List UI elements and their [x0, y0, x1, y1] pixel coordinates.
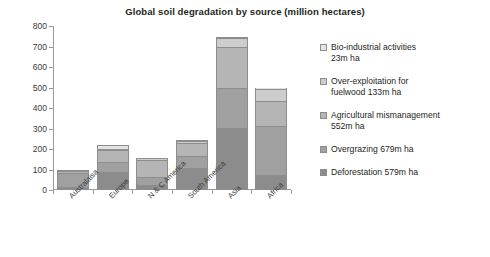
y-axis-tick [49, 149, 53, 150]
y-axis-tick [49, 129, 53, 130]
y-axis-tick [49, 108, 53, 109]
legend-swatch-icon [320, 44, 327, 51]
legend-item[interactable]: Agricultural mismanagement552m ha [320, 110, 488, 132]
y-axis-tick [49, 67, 53, 68]
legend-item-label: Agricultural mismanagement552m ha [331, 110, 440, 132]
x-axis-tick [93, 190, 94, 194]
chart-legend: Bio-industrial activities23m haOver-expl… [320, 42, 488, 190]
legend-item[interactable]: Deforestation 579m ha [320, 167, 488, 178]
y-axis-tick-label: 100 [33, 165, 47, 175]
bar-segment[interactable] [217, 39, 247, 48]
y-axis-tick-label: 500 [33, 83, 47, 93]
y-axis-tick [49, 26, 53, 27]
bar-segment[interactable] [256, 102, 286, 126]
bar-segment[interactable] [98, 163, 128, 173]
x-axis-tick [291, 190, 292, 194]
y-axis-tick-label: 700 [33, 42, 47, 52]
legend-item-label: Over-exploitation forfuelwood 133m ha [331, 76, 408, 98]
y-axis-tick-label: 600 [33, 62, 47, 72]
x-axis-tick [251, 190, 252, 194]
chart-container: Global soil degradation by source (milli… [0, 0, 490, 257]
y-axis-tick-label: 400 [33, 103, 47, 113]
plot-area: 0100200300400500600700800 [53, 26, 291, 190]
bar-segment[interactable] [177, 144, 207, 157]
bar-africa[interactable] [255, 88, 287, 191]
x-axis-tick [172, 190, 173, 194]
legend-item-label: Deforestation 579m ha [331, 167, 418, 178]
x-axis-tick [132, 190, 133, 194]
y-axis-tick-label: 800 [33, 21, 47, 31]
legend-item[interactable]: Overgrazing 679m ha [320, 144, 488, 155]
y-axis-tick [49, 47, 53, 48]
y-axis-tick-label: 200 [33, 144, 47, 154]
chart-title: Global soil degradation by source (milli… [0, 6, 490, 17]
bar-segment[interactable] [217, 89, 247, 129]
legend-swatch-icon [320, 112, 327, 119]
y-axis-tick [49, 88, 53, 89]
legend-item-label: Overgrazing 679m ha [331, 144, 414, 155]
x-axis-tick [53, 190, 54, 194]
y-axis-line [53, 26, 54, 190]
legend-item[interactable]: Over-exploitation forfuelwood 133m ha [320, 76, 488, 98]
bar-segment[interactable] [256, 90, 286, 103]
y-axis-tick-label: 0 [42, 185, 47, 195]
bar-segment[interactable] [98, 151, 128, 163]
legend-item[interactable]: Bio-industrial activities23m ha [320, 42, 488, 64]
legend-item-label: Bio-industrial activities23m ha [331, 42, 416, 64]
legend-swatch-icon [320, 169, 327, 176]
y-axis-tick-label: 300 [33, 124, 47, 134]
legend-swatch-icon [320, 78, 327, 85]
y-axis-tick [49, 170, 53, 171]
bar-segment[interactable] [217, 48, 247, 89]
legend-swatch-icon [320, 146, 327, 153]
x-axis-tick [212, 190, 213, 194]
bar-segment[interactable] [256, 127, 286, 176]
